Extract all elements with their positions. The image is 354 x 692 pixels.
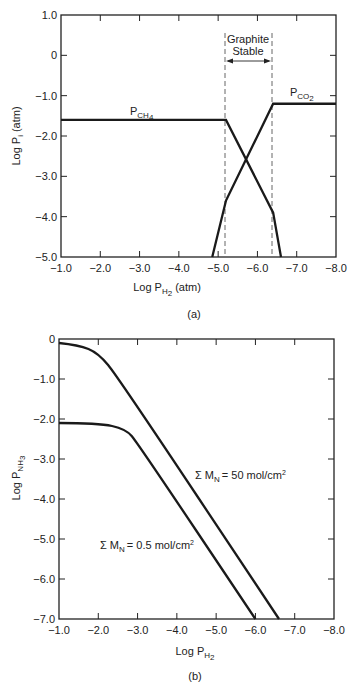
y-tick-label: −3.0: [33, 453, 55, 465]
x-tick-label: −4.0: [168, 262, 190, 274]
chart-b: −1.0−2.0−3.0−4.0−5.0−6.0−7.0−8.0 0−1.0−2…: [10, 333, 345, 682]
y-tick-label: −6.0: [33, 573, 55, 585]
y-tick-label: −5.0: [33, 533, 55, 545]
x-tick-label: −1.0: [48, 624, 70, 636]
arrow-left-icon: [226, 59, 233, 64]
chart-a-x-axis-label: Log PH2(atm): [133, 281, 201, 298]
chart-b-caption: (b): [188, 670, 201, 682]
y-tick-label: −1.0: [33, 373, 55, 385]
x-tick-label: −7.0: [284, 624, 306, 636]
series-0-5-mol-label: Σ MN= 0.5 mol/cm2: [100, 539, 194, 554]
chart-b-y-ticks: 0−1.0−2.0−3.0−4.0−5.0−6.0−7.0: [33, 333, 334, 625]
y-tick-label: −4.0: [33, 493, 55, 505]
chart-a-y-axis-label: Log Pi(atm): [10, 106, 25, 165]
y-tick-label: −2.0: [35, 130, 57, 142]
x-tick-label: −5.0: [205, 624, 227, 636]
chart-a-x-ticks: −1.0−2.0−3.0−4.0−5.0−6.0−7.0−8.0: [50, 15, 347, 274]
series-50-mol-line: [59, 343, 279, 619]
region-label-line2: Stable: [232, 45, 263, 57]
x-tick-label: −7.0: [286, 262, 308, 274]
region-label-line1: Graphite: [227, 33, 269, 45]
y-tick-label: 1.0: [42, 9, 57, 21]
y-tick-label: 0: [49, 333, 55, 345]
y-tick-label: −3.0: [35, 170, 57, 182]
series-0-5-mol-line: [59, 423, 255, 619]
arrow-right-icon: [264, 59, 271, 64]
x-tick-label: −8.0: [323, 624, 345, 636]
series-pco2-line: [212, 104, 336, 257]
chart-a-caption: (a): [187, 308, 200, 320]
series-pch4-line: [61, 120, 281, 257]
chart-b-y-axis-label: Log PNH3: [10, 455, 27, 500]
chart-a: −1.0−2.0−3.0−4.0−5.0−6.0−7.0−8.0 1.00−1.…: [10, 9, 347, 320]
figure: −1.0−2.0−3.0−4.0−5.0−6.0−7.0−8.0 1.00−1.…: [0, 0, 354, 692]
chart-b-x-axis-label: Log PH2: [176, 645, 216, 662]
pco2-label: PCO2: [290, 86, 314, 103]
x-tick-label: −3.0: [129, 262, 151, 274]
chart-b-x-ticks: −1.0−2.0−3.0−4.0−5.0−6.0−7.0−8.0: [48, 339, 345, 636]
y-tick-label: −2.0: [33, 413, 55, 425]
y-tick-label: −7.0: [33, 613, 55, 625]
y-tick-label: −4.0: [35, 211, 57, 223]
chart-a-y-ticks: 1.00−1.0−2.0−3.0−4.0−5.0: [35, 9, 336, 263]
x-tick-label: −3.0: [127, 624, 149, 636]
x-tick-label: −8.0: [325, 262, 347, 274]
x-tick-label: −6.0: [247, 262, 269, 274]
y-tick-label: −5.0: [35, 251, 57, 263]
x-tick-label: −2.0: [89, 262, 111, 274]
chart-a-plot-frame: [61, 15, 336, 257]
x-tick-label: −5.0: [207, 262, 229, 274]
x-tick-label: −1.0: [50, 262, 72, 274]
series-50-mol-label: Σ MN= 50 mol/cm2: [195, 469, 286, 484]
x-tick-label: −4.0: [166, 624, 188, 636]
x-tick-label: −2.0: [87, 624, 109, 636]
y-tick-label: 0: [51, 49, 57, 61]
y-tick-label: −1.0: [35, 90, 57, 102]
x-tick-label: −6.0: [245, 624, 267, 636]
